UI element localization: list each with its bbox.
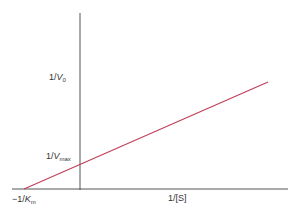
y-axis-label-prefix: 1/ xyxy=(49,72,57,82)
x-axis-label-text: 1/[S] xyxy=(168,193,187,203)
x-intercept-label-prefix: −1/ xyxy=(12,194,25,204)
lineweaver-burk-plot xyxy=(0,0,295,217)
data-line xyxy=(24,82,268,189)
x-intercept-label-sub: m xyxy=(31,199,36,205)
y-intercept-label-sub: max xyxy=(60,156,71,162)
y-axis-label-sub: 0 xyxy=(63,77,66,83)
y-axis-label: 1/V0 xyxy=(49,72,66,83)
x-axis-label: 1/[S] xyxy=(168,193,187,203)
y-intercept-label: 1/Vmax xyxy=(46,151,71,162)
y-intercept-label-prefix: 1/ xyxy=(46,151,54,161)
x-intercept-label: −1/Km xyxy=(12,194,36,205)
